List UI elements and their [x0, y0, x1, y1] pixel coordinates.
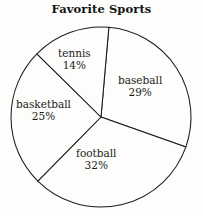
- pie-chart-figure: Favorite Sports baseball29%football32%ba…: [0, 0, 203, 216]
- pie-slices-group: [11, 27, 191, 207]
- pie-chart-graphic: [0, 0, 203, 216]
